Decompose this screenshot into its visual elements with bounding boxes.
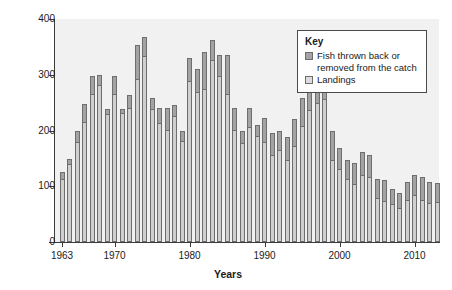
bar-segment-discards xyxy=(187,58,192,82)
x-tick-label: 1970 xyxy=(95,250,135,261)
x-axis-line xyxy=(54,242,440,243)
x-tick-label: 1980 xyxy=(170,250,210,261)
bar-1980 xyxy=(187,58,192,242)
y-tick-label: 200 xyxy=(11,126,55,136)
bar-1965 xyxy=(75,131,80,243)
bar-1982 xyxy=(202,52,207,242)
legend-item-landings-label: Landings xyxy=(317,74,356,86)
x-tick-mark xyxy=(265,243,266,247)
bar-segment-discards xyxy=(345,160,350,180)
bar-1970 xyxy=(112,76,117,242)
bar-1995 xyxy=(300,98,305,242)
bar-1993 xyxy=(285,137,290,242)
bar-segment-discards xyxy=(135,45,140,80)
discards-swatch-icon xyxy=(305,52,313,60)
legend-item-discards-label: Fish thrown back orremoved from the catc… xyxy=(317,50,417,73)
bar-1985 xyxy=(225,55,230,242)
y-tick-label: 100 xyxy=(11,181,55,191)
bar-1968 xyxy=(97,75,102,242)
bar-1969 xyxy=(105,109,110,242)
bar-1998 xyxy=(322,78,327,242)
bar-segment-discards xyxy=(165,108,170,130)
bar-1986 xyxy=(232,108,237,242)
legend-item-landings: Landings xyxy=(305,74,420,86)
bar-1976 xyxy=(157,108,162,242)
bar-1973 xyxy=(135,45,140,242)
x-tick-mark xyxy=(340,243,341,247)
bar-1984 xyxy=(217,55,222,242)
bar-segment-discards xyxy=(210,40,215,61)
y-axis-ticks: 0100200300400 xyxy=(0,0,55,290)
bar-1972 xyxy=(127,95,132,242)
bar-segment-discards xyxy=(352,163,357,184)
bar-1987 xyxy=(240,131,245,243)
x-tick-mark xyxy=(62,243,63,247)
bar-segment-discards xyxy=(75,131,80,143)
bar-segment-discards xyxy=(67,159,72,165)
bar-segment-discards xyxy=(330,131,335,161)
bar-segment-discards xyxy=(405,182,410,201)
bar-1964 xyxy=(67,159,72,242)
bar-2007 xyxy=(390,189,395,242)
bar-segment-discards xyxy=(82,104,87,123)
bar-1992 xyxy=(277,131,282,242)
bar-segment-discards xyxy=(427,182,432,204)
bar-segment-discards xyxy=(277,131,282,151)
bar-segment-discards xyxy=(127,95,132,109)
bar-segment-discards xyxy=(270,133,275,156)
y-tick-label: 0 xyxy=(11,237,55,247)
bar-segment-discards xyxy=(112,76,117,95)
bar-1999 xyxy=(330,131,335,243)
bar-2004 xyxy=(367,155,372,242)
bar-segment-discards xyxy=(232,108,237,131)
bar-segment-discards xyxy=(97,75,102,86)
bar-segment-discards xyxy=(367,155,372,178)
bar-1963 xyxy=(60,172,65,242)
bar-segment-discards xyxy=(240,131,245,144)
bar-2010 xyxy=(412,175,417,242)
bar-segment-discards xyxy=(247,108,252,128)
y-tick-label: 400 xyxy=(11,14,55,24)
bar-2009 xyxy=(405,182,410,242)
bar-2006 xyxy=(382,180,387,242)
bar-segment-discards xyxy=(397,193,402,209)
legend-item-discards: Fish thrown back orremoved from the catc… xyxy=(305,50,420,73)
x-axis-title: Years xyxy=(54,268,402,280)
bar-2002 xyxy=(352,163,357,242)
bar-segment-discards xyxy=(292,119,297,147)
bar-2012 xyxy=(427,182,432,242)
bar-segment-discards xyxy=(120,109,125,113)
bar-1981 xyxy=(195,69,200,242)
bar-segment-discards xyxy=(300,98,305,127)
x-tick-mark xyxy=(415,243,416,247)
x-tick-mark xyxy=(115,243,116,247)
bar-2001 xyxy=(345,160,350,242)
bar-segment-discards xyxy=(202,52,207,90)
bar-segment-discards xyxy=(60,172,65,179)
bar-segment-discards xyxy=(375,179,380,199)
bar-segment-discards xyxy=(382,180,387,202)
bar-2013 xyxy=(435,183,440,242)
bar-1978 xyxy=(172,105,177,242)
bar-2000 xyxy=(337,148,342,242)
bar-2011 xyxy=(420,177,425,242)
x-tick-mark xyxy=(190,243,191,247)
bar-segment-discards xyxy=(262,118,267,143)
bar-segment-discards xyxy=(420,177,425,201)
bar-segment-discards xyxy=(172,105,177,117)
bar-segment-discards xyxy=(225,55,230,95)
bar-2003 xyxy=(360,152,365,242)
bar-segment-discards xyxy=(337,148,342,170)
bar-segment-discards xyxy=(285,137,290,162)
bar-segment-discards xyxy=(390,189,395,205)
bar-1990 xyxy=(262,118,267,242)
bar-1975 xyxy=(150,98,155,242)
legend-title: Key xyxy=(305,36,420,48)
bar-segment-discards xyxy=(412,175,417,196)
bar-1989 xyxy=(255,125,260,242)
bar-segment-discards xyxy=(180,131,185,142)
y-tick-label: 300 xyxy=(11,70,55,80)
x-tick-label: 2010 xyxy=(395,250,435,261)
x-tick-label: 1990 xyxy=(245,250,285,261)
bar-segment-discards xyxy=(195,69,200,93)
